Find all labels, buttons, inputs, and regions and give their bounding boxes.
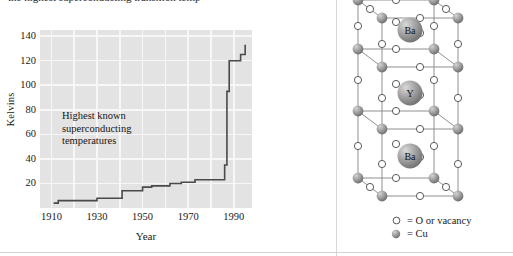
unit-cell-svg: Ba Y Ba: [336, 0, 513, 218]
x-axis-label: Year: [40, 230, 252, 242]
y-tick-label: 40: [2, 154, 36, 164]
x-tick-label: 1950: [121, 211, 165, 222]
y-tick-label: 100: [2, 80, 36, 90]
y-tick-label: 20: [2, 178, 36, 188]
crystal-structure-diagram: Ba Y Ba = O or vacancy= Cu: [336, 0, 513, 256]
x-tick-label: 1930: [75, 211, 119, 222]
open-circle-icon: [388, 216, 404, 225]
annotation-line: superconducting: [62, 123, 158, 136]
x-tick-label: 1970: [166, 211, 210, 222]
x-axis-ticks: 19101930195019701990: [40, 211, 252, 227]
annotation-line: temperatures: [62, 135, 158, 148]
crystal-legend: = O or vacancy= Cu: [388, 214, 472, 240]
y-tick-label: 120: [2, 56, 36, 66]
legend-row: = Cu: [388, 227, 472, 240]
x-tick-label: 1910: [29, 211, 73, 222]
y-axis-ticks: 20406080100120140: [0, 30, 36, 208]
atom-label-y: Y: [406, 88, 413, 99]
y-tick-label: 60: [2, 129, 36, 139]
filled-sphere-icon: [388, 229, 404, 239]
atom-label-ba-top: Ba: [404, 25, 416, 36]
annotation-line: Highest known: [62, 110, 158, 123]
superconductivity-chart: Kelvins 20406080100120140 19101930195019…: [0, 0, 336, 256]
y-tick-label: 80: [2, 105, 36, 115]
y-tick-label: 140: [2, 31, 36, 41]
chart-annotation: Highest knownsuperconductingtemperatures: [62, 110, 158, 148]
legend-label: = Cu: [407, 228, 428, 239]
figure-root: the highest superconducting transition t…: [0, 0, 513, 256]
legend-label: = O or vacancy: [407, 215, 472, 226]
x-tick-label: 1990: [212, 211, 256, 222]
atom-label-ba-bot: Ba: [404, 151, 416, 162]
legend-row: = O or vacancy: [388, 214, 472, 227]
